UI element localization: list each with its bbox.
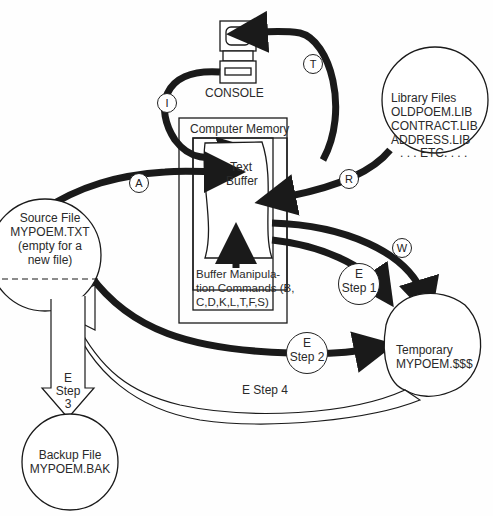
step1-label: Step 1 bbox=[338, 281, 380, 295]
library-file-2: CONTRACT.LIB bbox=[391, 119, 478, 133]
badge-i: I bbox=[157, 93, 177, 113]
source-line-1: Source File bbox=[5, 211, 95, 225]
backup-line-1: Backup File bbox=[25, 448, 115, 462]
edit-process-diagram: CONSOLE Library Files OLDPOEM.LIB CONTRA… bbox=[0, 0, 493, 516]
memory-title: Computer Memory bbox=[190, 122, 289, 136]
backup-line-2: MYPOEM.BAK bbox=[25, 462, 115, 476]
library-file-1: OLDPOEM.LIB bbox=[391, 105, 472, 119]
badge-a: A bbox=[129, 173, 149, 193]
buffer-label-1: Text bbox=[230, 160, 252, 174]
step4-label: E Step 4 bbox=[242, 383, 288, 397]
source-line-4: new file) bbox=[5, 253, 95, 267]
commands-line-2: tion Commands (B, bbox=[196, 281, 294, 295]
arrow-r bbox=[275, 150, 390, 199]
step2-e: E bbox=[286, 336, 328, 350]
badge-t: T bbox=[303, 54, 323, 74]
commands-line-3: C,D,K,L,T,F,S) bbox=[196, 295, 269, 309]
library-title: Library Files bbox=[391, 91, 456, 105]
console-label: CONSOLE bbox=[205, 86, 264, 100]
badge-w: W bbox=[392, 238, 412, 258]
temporary-line-1: Temporary bbox=[396, 343, 453, 357]
step2-label: Step 2 bbox=[286, 350, 328, 364]
badge-r: R bbox=[339, 169, 359, 189]
library-etc: . . . ETC. . . . bbox=[400, 146, 467, 160]
temporary-line-2: MYPOEM.$$$ bbox=[396, 357, 473, 371]
buffer-label-2: Buffer bbox=[226, 174, 258, 188]
step3-num: 3 bbox=[50, 397, 86, 411]
commands-line-1: Buffer Manipula- bbox=[196, 267, 280, 281]
source-line-2: MYPOEM.TXT bbox=[5, 225, 95, 239]
source-line-3: (empty for a bbox=[5, 239, 95, 253]
step1-e: E bbox=[338, 267, 380, 281]
library-file-3: ADDRESS.LIB bbox=[391, 133, 470, 147]
step3-e: E bbox=[50, 371, 86, 385]
step3-label: Step bbox=[50, 384, 86, 398]
